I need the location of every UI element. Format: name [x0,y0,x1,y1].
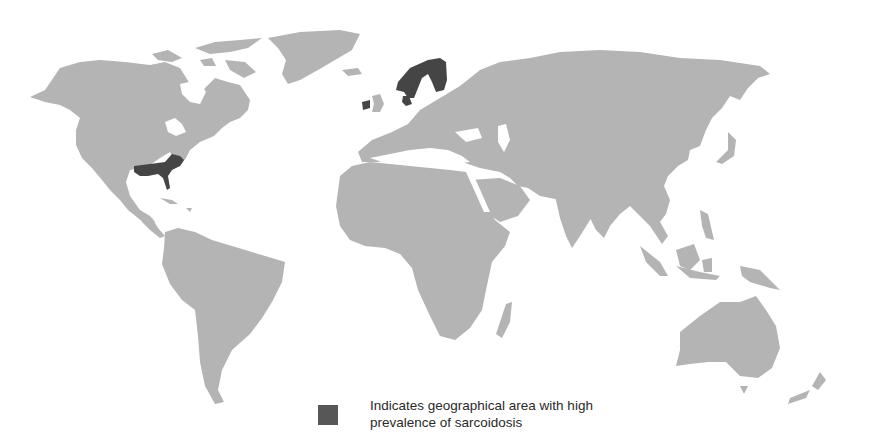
south-america [162,228,285,404]
great-britain [372,94,384,112]
new-zealand [788,372,826,404]
madagascar [496,302,512,338]
legend-swatch [318,405,338,425]
central-america [140,212,165,238]
greenland [268,30,360,84]
india [555,196,596,248]
legend: Indicates geographical area with high pr… [318,397,600,431]
japan [716,132,736,164]
philippines [700,210,714,240]
iceland [342,68,362,76]
australia [676,296,780,378]
world-map [0,0,870,446]
indonesia [640,244,780,290]
north-america [30,60,250,226]
tasmania [740,386,748,394]
legend-label: Indicates geographical area with high pr… [370,397,600,431]
highlight-ireland [362,100,370,110]
highlight-scandinavia [396,58,447,98]
caribbean [160,198,192,212]
